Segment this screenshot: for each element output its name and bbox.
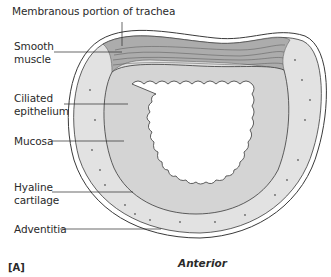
label-ciliated-epithelium-line1: Ciliated	[14, 92, 53, 104]
label-ciliated-epithelium-line2: epithelium	[14, 105, 69, 117]
label-hyaline-cartilage-line2: cartilage	[14, 194, 59, 206]
orientation-label: Anterior	[178, 257, 227, 269]
panel-label: [A]	[8, 262, 25, 273]
label-smooth-muscle-line1: Smooth	[14, 40, 54, 52]
label-hyaline-cartilage-line1: Hyaline	[14, 181, 53, 193]
label-mucosa: Mucosa	[14, 135, 53, 147]
label-smooth-muscle-line2: muscle	[14, 53, 51, 65]
label-membranous-portion: Membranous portion of trachea	[12, 5, 175, 17]
trachea-diagram: Membranous portion of trachea Smooth mus…	[0, 0, 331, 277]
label-adventitia: Adventitia	[14, 223, 67, 235]
